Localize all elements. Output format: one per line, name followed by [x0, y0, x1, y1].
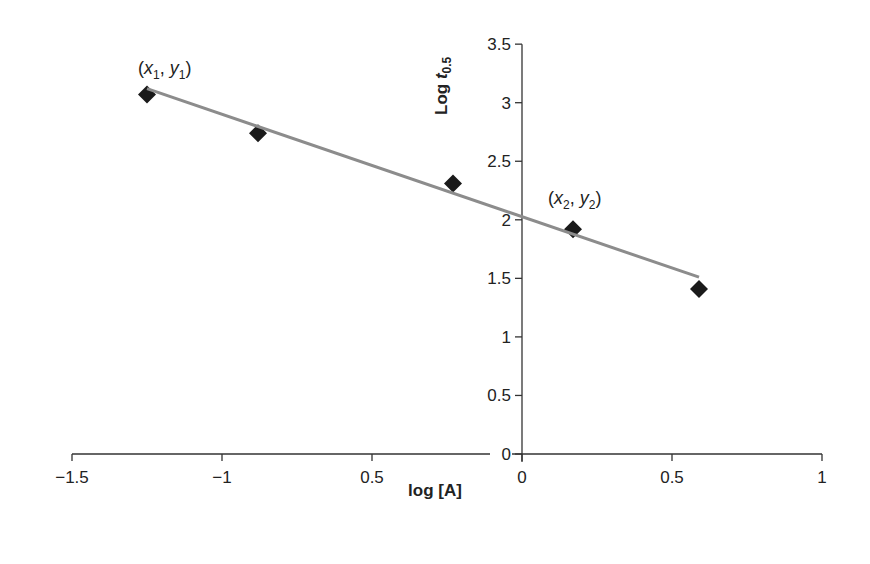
annotation-x1-y1: (x1, y1)	[138, 58, 191, 82]
data-point-diamond-icon	[690, 280, 708, 298]
annotation-x2-y2: (x2, y2)	[548, 188, 601, 212]
log-plot: −1.5−10.500.51 00.511.522.533.5 log [A] …	[0, 0, 870, 564]
x-tick-label: 0.5	[660, 468, 684, 487]
y-tick-label: 1	[502, 328, 511, 347]
data-points	[138, 86, 708, 298]
x-tick-label: −1	[212, 468, 231, 487]
y-tick-label: 3.5	[487, 35, 511, 54]
x-tick-label: 0.5	[360, 468, 384, 487]
y-tick-label: 2.5	[487, 152, 511, 171]
x-tick-label: 1	[817, 468, 826, 487]
x-axis-title: log [A]	[408, 481, 462, 500]
data-point-diamond-icon	[138, 86, 156, 104]
y-tick-label: 3	[502, 94, 511, 113]
x-tick-label: 0	[517, 468, 526, 487]
y-axis-title: Log t0.5	[432, 56, 454, 115]
y-tick-label: 1.5	[487, 269, 511, 288]
y-tick-label: 0.5	[487, 386, 511, 405]
y-tick-label: 0	[502, 445, 511, 464]
y-axis: 00.511.522.533.5	[487, 35, 522, 464]
fit-line	[147, 89, 699, 278]
x-tick-label: −1.5	[55, 468, 89, 487]
